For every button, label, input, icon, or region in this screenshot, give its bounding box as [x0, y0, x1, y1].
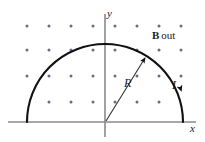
physics-figure: y x R I Bout	[0, 0, 205, 142]
field-dot-icon	[70, 75, 73, 78]
field-dot-icon	[92, 75, 95, 78]
field-dot-row	[26, 75, 183, 78]
field-dot-icon	[48, 75, 51, 78]
field-dot-icon	[92, 101, 95, 104]
current-direction-arrow-icon	[176, 76, 181, 90]
field-dot-icon	[136, 25, 139, 28]
field-dot-icon	[26, 75, 29, 78]
field-dot-icon	[48, 101, 51, 104]
field-dot-icon	[180, 49, 183, 52]
field-dot-icon	[114, 101, 117, 104]
x-axis-label: x	[190, 123, 195, 134]
field-dot-row	[48, 101, 161, 104]
field-dot-icon	[180, 75, 183, 78]
field-dot-icon	[114, 25, 117, 28]
field-dot-icon	[180, 25, 183, 28]
field-dot-icon	[136, 101, 139, 104]
field-dot-icon	[136, 75, 139, 78]
field-dot-icon	[26, 25, 29, 28]
field-dot-icon	[48, 49, 51, 52]
field-dot-icon	[158, 49, 161, 52]
field-dot-icon	[158, 25, 161, 28]
figure-canvas	[0, 0, 205, 142]
field-dot-row	[26, 49, 183, 52]
field-dot-icon	[158, 101, 161, 104]
magnetic-field-label: Bout	[152, 30, 175, 41]
field-dot-icon	[92, 25, 95, 28]
y-axis-label: y	[107, 8, 112, 19]
magnetic-field-direction: out	[159, 29, 175, 41]
field-dot-icon	[158, 75, 161, 78]
field-dot-icon	[70, 25, 73, 28]
field-dot-icon	[48, 25, 51, 28]
field-dot-icon	[70, 101, 73, 104]
field-dot-icon	[114, 49, 117, 52]
field-dot-icon	[92, 49, 95, 52]
field-dot-icon	[114, 75, 117, 78]
current-label: I	[172, 79, 176, 91]
radius-label: R	[124, 77, 131, 89]
field-dot-icon	[26, 49, 29, 52]
field-dot-row	[26, 25, 183, 28]
